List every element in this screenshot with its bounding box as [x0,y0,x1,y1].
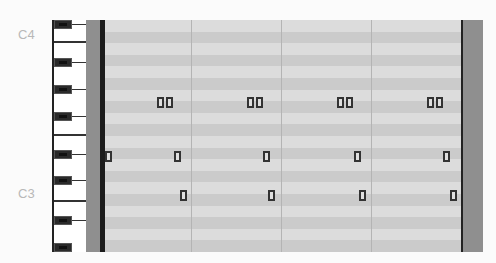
black-key[interactable] [54,85,72,94]
piano-keyboard[interactable] [52,20,88,252]
key-divider [54,200,88,202]
octave-label-c3: C3 [18,186,35,201]
black-key[interactable] [54,176,72,185]
note-grid[interactable] [105,20,461,252]
piano-roll-editor: C4 C3 [0,0,496,263]
octave-label-c4: C4 [18,27,35,42]
beat-line [281,20,282,252]
black-key[interactable] [54,243,72,252]
grid-row[interactable] [105,113,461,125]
midi-note[interactable] [180,190,187,201]
grid-row[interactable] [105,136,461,148]
grid-row[interactable] [105,124,461,136]
midi-note[interactable] [174,151,181,162]
grid-row[interactable] [105,32,461,44]
grid-row[interactable] [105,217,461,229]
grid-row[interactable] [105,43,461,55]
grid-row[interactable] [105,240,461,252]
black-key[interactable] [54,216,72,225]
midi-note[interactable] [354,151,361,162]
black-key[interactable] [54,112,72,121]
grid-row[interactable] [105,159,461,171]
grid-row[interactable] [105,182,461,194]
grid-row[interactable] [105,171,461,183]
midi-note[interactable] [337,97,344,108]
black-key[interactable] [54,20,72,29]
midi-note[interactable] [263,151,270,162]
grid-row[interactable] [105,194,461,206]
grid-row[interactable] [105,206,461,218]
beat-line [191,20,192,252]
midi-note[interactable] [450,190,457,201]
midi-note[interactable] [427,97,434,108]
grid-row[interactable] [105,66,461,78]
midi-note[interactable] [268,190,275,201]
left-margin-strip [86,20,100,252]
beat-line [371,20,372,252]
grid-row[interactable] [105,229,461,241]
midi-note[interactable] [157,97,164,108]
black-key[interactable] [54,150,72,159]
midi-note[interactable] [359,190,366,201]
midi-note[interactable] [436,97,443,108]
midi-note[interactable] [105,151,112,162]
black-key[interactable] [54,58,72,67]
midi-note[interactable] [166,97,173,108]
grid-row[interactable] [105,148,461,160]
midi-note[interactable] [247,97,254,108]
grid-row[interactable] [105,55,461,67]
grid-row[interactable] [105,20,461,32]
right-margin-strip [463,20,483,252]
grid-row[interactable] [105,78,461,90]
midi-note[interactable] [346,97,353,108]
key-divider [54,134,88,136]
key-divider [54,41,88,43]
midi-note[interactable] [443,151,450,162]
midi-note[interactable] [256,97,263,108]
